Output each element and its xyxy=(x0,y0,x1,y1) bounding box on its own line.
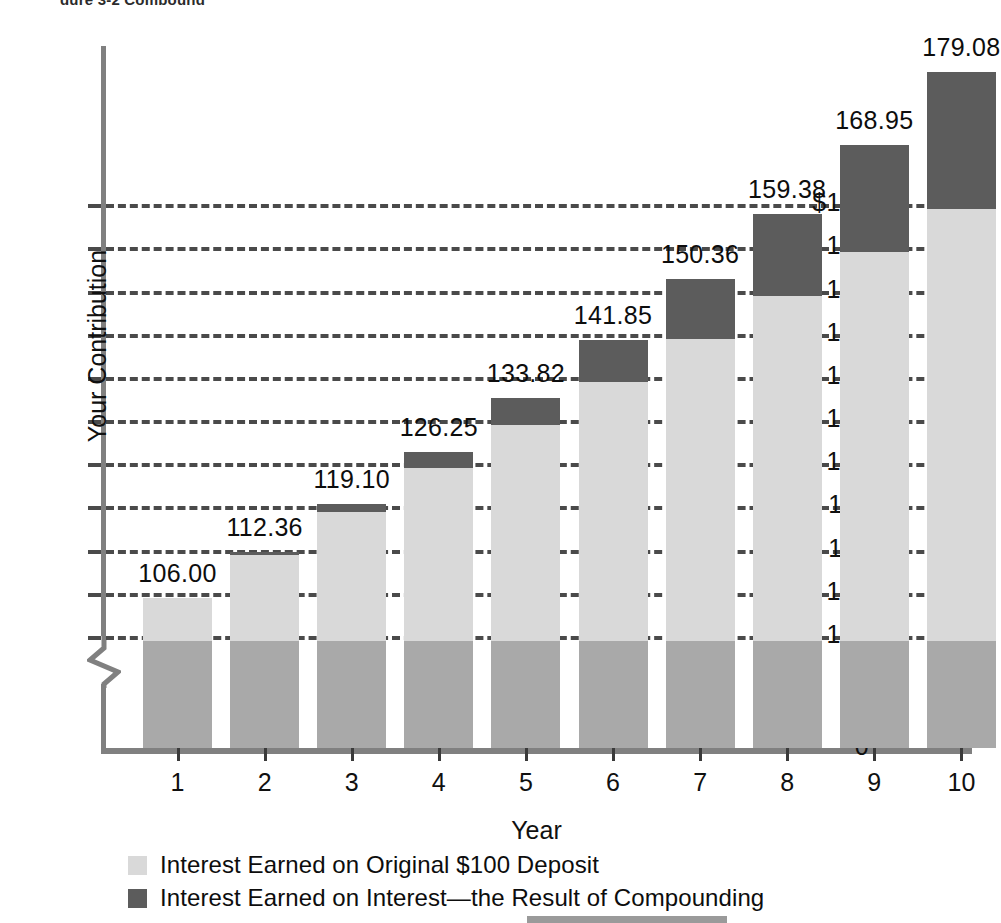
bar-segment-simple-interest xyxy=(753,296,822,641)
x-tick-label: 7 xyxy=(693,768,707,797)
y-axis-title: Your Contribution xyxy=(83,250,112,442)
bar-group-year-10[interactable] xyxy=(927,72,996,748)
bar-segment-simple-interest xyxy=(317,512,386,642)
bar-value-label: 141.85 xyxy=(574,301,652,330)
y-tick-100 xyxy=(88,636,101,640)
bar-value-label: 150.36 xyxy=(661,240,739,269)
bar-segment-simple-interest xyxy=(579,382,648,641)
bar-segment-simple-interest xyxy=(230,555,299,641)
bar-segment-compound-interest xyxy=(753,214,822,296)
bar-segment-simple-interest xyxy=(491,425,560,641)
x-tick-label: 1 xyxy=(171,768,185,797)
legend-item-label: Interest Earned on Original $100 Deposit xyxy=(160,851,599,879)
bar-segment-simple-interest xyxy=(143,598,212,641)
bar-value-label: 106.00 xyxy=(138,559,216,588)
y-tick-124 xyxy=(88,463,101,467)
bar-segment-simple-interest xyxy=(404,468,473,641)
bar-segment-compound-interest xyxy=(317,504,386,512)
bar-group-year-8[interactable] xyxy=(753,214,822,748)
x-tick-label: 5 xyxy=(519,768,533,797)
bar-segment-simple-interest xyxy=(927,209,996,641)
bar-segment-principal xyxy=(317,641,386,748)
bar-value-label: 179.08 xyxy=(922,33,1000,62)
x-tick-1 xyxy=(177,748,180,761)
x-tick-9 xyxy=(873,748,876,761)
bar-segment-principal xyxy=(579,641,648,748)
bar-group-year-5[interactable] xyxy=(491,398,560,748)
bar-segment-compound-interest xyxy=(666,279,735,339)
bar-segment-principal xyxy=(666,641,735,748)
y-tick-112 xyxy=(88,550,101,554)
bar-segment-principal xyxy=(404,641,473,748)
x-tick-3 xyxy=(351,748,354,761)
y-tick-106 xyxy=(88,593,101,597)
x-tick-label: 8 xyxy=(780,768,794,797)
bar-segment-compound-interest xyxy=(491,398,560,425)
bar-segment-principal xyxy=(143,641,212,748)
y-tick-160 xyxy=(88,204,101,208)
bar-segment-compound-interest xyxy=(927,72,996,209)
bar-segment-compound-interest xyxy=(840,145,909,253)
bar-segment-principal xyxy=(491,641,560,748)
x-tick-label: 9 xyxy=(867,768,881,797)
chart-legend: Interest Earned on Original $100 Deposit… xyxy=(128,852,764,918)
x-tick-8 xyxy=(786,748,789,761)
bar-segment-compound-interest xyxy=(579,340,648,382)
bar-group-year-2[interactable] xyxy=(230,552,299,748)
x-tick-label: 2 xyxy=(258,768,272,797)
x-tick-label: 10 xyxy=(947,768,975,797)
x-tick-6 xyxy=(612,748,615,761)
figure-title-fragment: gure 3-2 Compound xyxy=(60,0,205,5)
plot-area: 100106112118124130136142148154$1600 Your… xyxy=(101,46,972,753)
legend-item[interactable]: Interest Earned on Interest—the Result o… xyxy=(128,885,764,911)
y-axis-break-icon xyxy=(87,634,121,688)
bar-group-year-6[interactable] xyxy=(579,340,648,748)
bar-group-year-3[interactable] xyxy=(317,504,386,748)
x-tick-4 xyxy=(438,748,441,761)
x-axis-title: Year xyxy=(101,816,972,845)
bar-value-label: 168.95 xyxy=(835,106,913,135)
x-tick-label: 6 xyxy=(606,768,620,797)
bar-group-year-1[interactable] xyxy=(143,598,212,748)
legend-swatch-simple-interest xyxy=(128,856,147,875)
bar-value-label: 126.25 xyxy=(400,413,478,442)
bar-segment-compound-interest xyxy=(404,452,473,468)
bar-segment-principal xyxy=(753,641,822,748)
x-tick-10 xyxy=(960,748,963,761)
x-tick-2 xyxy=(264,748,267,761)
x-axis-spine xyxy=(101,748,972,754)
bar-group-year-9[interactable] xyxy=(840,145,909,748)
bar-value-label: 119.10 xyxy=(313,465,389,494)
x-tick-label: 4 xyxy=(432,768,446,797)
bar-value-label: 112.36 xyxy=(226,513,302,542)
legend-item[interactable]: Interest Earned on Original $100 Deposit xyxy=(128,852,764,878)
legend-swatch-compound-interest xyxy=(128,889,147,908)
y-axis-spine-lower xyxy=(101,684,106,753)
x-tick-7 xyxy=(699,748,702,761)
y-tick-118 xyxy=(88,506,101,510)
page-edge-artifact xyxy=(527,916,727,923)
x-tick-5 xyxy=(525,748,528,761)
bar-segment-simple-interest xyxy=(666,339,735,641)
bar-value-label: 133.82 xyxy=(487,359,565,388)
bar-segment-principal xyxy=(840,641,909,748)
bar-group-year-4[interactable] xyxy=(404,452,473,748)
bar-segment-principal xyxy=(230,641,299,748)
bar-group-year-7[interactable] xyxy=(666,279,735,748)
bar-value-label: 159.38 xyxy=(748,175,826,204)
x-tick-label: 3 xyxy=(345,768,359,797)
bar-segment-principal xyxy=(927,641,996,748)
legend-item-label: Interest Earned on Interest—the Result o… xyxy=(160,884,764,912)
bar-segment-compound-interest xyxy=(230,552,299,555)
bar-segment-simple-interest xyxy=(840,252,909,641)
